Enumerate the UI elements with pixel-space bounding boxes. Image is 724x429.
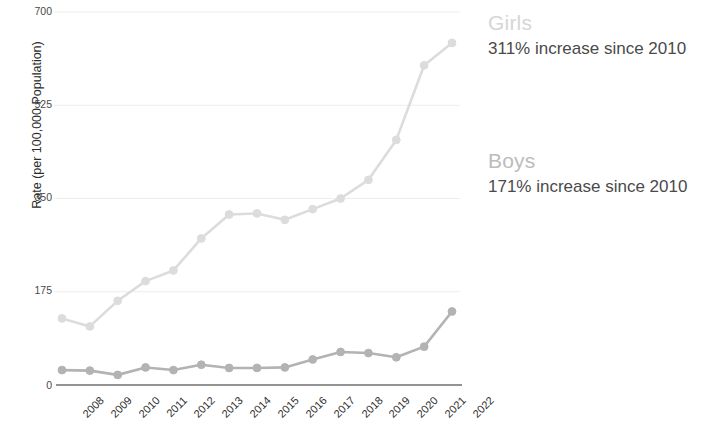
data-point-boys — [337, 348, 345, 356]
data-point-girls — [420, 61, 428, 69]
data-point-boys — [253, 364, 261, 372]
data-point-girls — [281, 216, 289, 224]
data-point-boys — [58, 366, 66, 374]
data-point-boys — [197, 361, 205, 369]
series-line-girls — [62, 43, 452, 326]
legend-sublabel-boys: 171% increase since 2010 — [488, 176, 687, 197]
data-point-boys — [420, 343, 428, 351]
data-point-boys — [170, 366, 178, 374]
legend-entry-girls: Girls 311% increase since 2010 — [488, 10, 686, 59]
data-point-boys — [86, 367, 94, 375]
data-point-girls — [114, 297, 122, 305]
data-point-boys — [281, 364, 289, 372]
data-point-boys — [142, 364, 150, 372]
legend-label-boys: Boys — [488, 148, 687, 173]
data-point-girls — [86, 322, 94, 330]
data-point-boys — [225, 364, 233, 372]
plot-area: Rate (per 100,000 Population) 700 525 35… — [0, 0, 470, 429]
data-point-girls — [142, 277, 150, 285]
legend-entry-boys: Boys 171% increase since 2010 — [488, 148, 687, 197]
data-point-boys — [309, 356, 317, 364]
line-chart-svg — [0, 0, 470, 429]
legend: Girls 311% increase since 2010 Boys 171%… — [470, 0, 724, 429]
data-point-boys — [114, 371, 122, 379]
data-point-boys — [448, 308, 456, 316]
data-point-girls — [365, 176, 373, 184]
data-point-boys — [365, 349, 373, 357]
chart-figure: Rate (per 100,000 Population) 700 525 35… — [0, 0, 724, 429]
data-point-girls — [337, 195, 345, 203]
data-point-girls — [225, 211, 233, 219]
data-point-girls — [253, 210, 261, 218]
data-point-boys — [392, 353, 400, 361]
legend-label-girls: Girls — [488, 10, 686, 35]
data-point-girls — [170, 267, 178, 275]
data-point-girls — [197, 235, 205, 243]
data-point-girls — [58, 314, 66, 322]
legend-sublabel-girls: 311% increase since 2010 — [488, 38, 686, 59]
data-point-girls — [392, 136, 400, 144]
data-point-girls — [448, 39, 456, 47]
data-point-girls — [309, 205, 317, 213]
